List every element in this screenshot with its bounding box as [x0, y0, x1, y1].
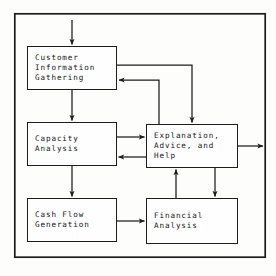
- node-label-line: Information: [35, 63, 116, 73]
- node-label-line: Financial: [154, 211, 237, 221]
- node-label-line: Analysis: [154, 221, 237, 231]
- node-label-line: Generation: [35, 220, 116, 230]
- edge-explanation-to-customer: [119, 80, 159, 124]
- node-label-line: Help: [154, 151, 237, 161]
- node-financial-analysis[interactable]: Financial Analysis: [146, 198, 238, 244]
- node-customer-information-gathering[interactable]: Customer Information Gathering: [27, 46, 117, 90]
- node-cash-flow-generation[interactable]: Cash Flow Generation: [27, 198, 117, 242]
- node-label-line: Explanation,: [154, 131, 237, 141]
- node-label-line: Cash Flow: [35, 210, 116, 220]
- node-label-line: Customer: [35, 53, 116, 63]
- node-label-line: Gathering: [35, 73, 116, 83]
- node-label-line: Advice, and: [154, 141, 237, 151]
- node-capacity-analysis[interactable]: Capacity Analysis: [27, 122, 117, 166]
- edge-customer-to-explanation: [117, 65, 192, 123]
- node-label-line: Capacity: [35, 134, 116, 144]
- node-explanation-advice-and-help[interactable]: Explanation, Advice, and Help: [146, 124, 238, 168]
- node-label-line: Analysis: [35, 144, 116, 154]
- figure-container: Customer Information Gathering Capacity …: [0, 0, 276, 276]
